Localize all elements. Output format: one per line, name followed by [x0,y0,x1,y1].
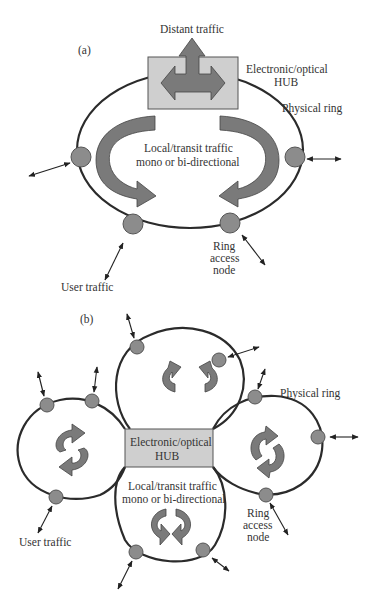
ring-access-node-b [49,490,63,504]
ring-access-node-b [40,398,54,412]
ring-access-node-b [259,488,273,502]
local-traffic-label-a-line1: Local/transit traffic [144,142,233,154]
part-a: (a) Distant traffic Electronic/optical H… [29,23,343,293]
local-traffic-label-b-line1: Local/transit traffic [128,480,217,492]
ring-access-node-b [129,545,143,559]
physical-ring-left [18,399,125,499]
circulating-traffic-icon-right [251,426,284,478]
user-traffic-arrow-icon [212,558,229,571]
part-b: (b) Electronic/optical HUB Local/transit… [18,313,358,589]
local-traffic-label-a-line2: mono or bi-directional [136,156,239,168]
user-traffic-arrow-icon [242,235,265,265]
local-traffic-label-b-line2: mono or bi-directional [122,493,225,505]
ring-access-node-b [130,340,144,354]
circulating-traffic-icon-top [163,361,218,392]
user-traffic-arrow-icon [118,561,132,589]
user-traffic-arrow-icon [29,163,70,176]
ring-access-node-b [212,353,226,367]
physical-ring-right [213,396,322,495]
hub-label-a-line1: Electronic/optical [246,63,328,76]
user-traffic-arrow-icon [38,372,44,396]
ring-access-node-a-left [71,147,91,167]
hub-label-a-line2: HUB [274,76,299,88]
circulating-traffic-icon-left [56,424,88,476]
user-traffic-label-a: User traffic [61,281,113,293]
ring-access-node-b [311,430,325,444]
ring-access-node-b [196,543,210,557]
user-traffic-arrow-icon [270,503,288,535]
ring-access-node-a-bottom-right [220,213,240,233]
user-traffic-arrow-icon [94,367,97,392]
user-traffic-arrow-icon [105,243,123,280]
hub-label-b-line2: HUB [155,450,180,462]
part-a-label: (a) [78,44,91,57]
distant-traffic-label: Distant traffic [160,23,224,35]
hub-label-b-line1: Electronic/optical [130,436,212,449]
physical-ring-label-b: Physical ring [280,387,341,400]
ring-node-label-b-line2: access [243,519,273,531]
user-traffic-arrow-icon [38,506,52,533]
user-traffic-arrow-icon [258,369,265,389]
part-b-label: (b) [80,313,94,326]
ring-node-label-a-line3: node [213,264,235,276]
user-traffic-label-b: User traffic [19,536,71,548]
ring-node-label-b-line3: node [247,531,269,543]
user-traffic-arrow-icon [127,314,134,338]
physical-ring-label-a: Physical ring [282,102,343,115]
ring-network-diagram: (a) Distant traffic Electronic/optical H… [0,0,379,607]
ring-access-node-b [85,394,99,408]
ring-access-node-a-bottom-left [123,214,143,234]
ring-access-node-a-right [285,147,305,167]
ring-access-node-b [248,390,262,404]
circulating-traffic-icon-bottom [151,509,190,545]
ring-node-label-a-line2: access [210,252,240,264]
